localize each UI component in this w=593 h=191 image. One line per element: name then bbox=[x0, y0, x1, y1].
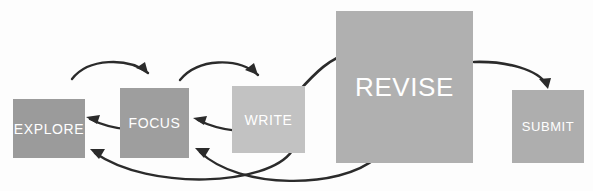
process-diagram-canvas: EXPLOREFOCUSWRITEREVISESUBMIT bbox=[0, 0, 593, 191]
process-node-label: EXPLORE bbox=[14, 122, 84, 136]
edge-line bbox=[474, 62, 546, 84]
process-node-label: WRITE bbox=[244, 113, 292, 127]
edge-revise-to-submit bbox=[474, 62, 551, 89]
process-node-write[interactable]: WRITE bbox=[232, 86, 305, 153]
arrowhead-icon bbox=[195, 148, 210, 158]
edge-focus-to-write bbox=[180, 62, 258, 80]
arrowhead-icon bbox=[136, 62, 148, 73]
process-node-focus[interactable]: FOCUS bbox=[120, 88, 189, 158]
arrowhead-icon bbox=[193, 116, 207, 125]
process-node-submit[interactable]: SUBMIT bbox=[512, 90, 584, 163]
process-node-revise[interactable]: REVISE bbox=[336, 11, 473, 163]
process-node-explore[interactable]: EXPLORE bbox=[13, 99, 85, 158]
arrowhead-icon bbox=[86, 115, 100, 124]
process-node-label: REVISE bbox=[355, 74, 454, 100]
edge-line bbox=[72, 62, 148, 79]
process-node-label: SUBMIT bbox=[522, 120, 575, 133]
edge-explore-to-focus bbox=[72, 62, 148, 79]
arrowhead-icon bbox=[245, 63, 258, 75]
edge-line bbox=[180, 62, 258, 80]
arrowhead-icon bbox=[539, 78, 551, 89]
process-node-label: FOCUS bbox=[129, 116, 181, 130]
arrowhead-icon bbox=[90, 149, 105, 159]
